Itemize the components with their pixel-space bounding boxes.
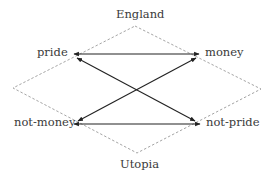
node-not-pride: not-pride xyxy=(206,117,260,129)
node-money: money xyxy=(205,47,244,59)
diagram-canvas xyxy=(0,0,275,176)
node-pride: pride xyxy=(37,47,68,59)
node-not-money: not-money xyxy=(14,117,75,129)
frame-label-utopia: Utopia xyxy=(120,159,159,171)
frame-label-england: England xyxy=(116,9,164,21)
